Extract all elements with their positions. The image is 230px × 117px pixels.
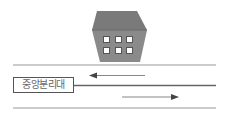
road-diagram [0, 0, 230, 117]
building-icon [92, 11, 147, 62]
arrow-right-icon [122, 94, 179, 100]
median-label: 중앙분리대 [13, 77, 74, 93]
arrow-left-icon [89, 73, 145, 79]
